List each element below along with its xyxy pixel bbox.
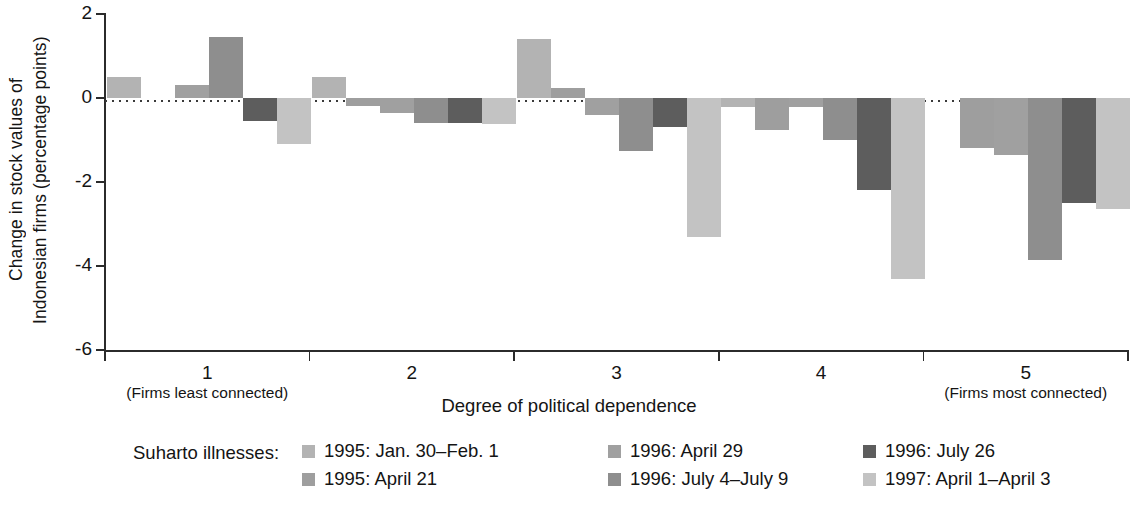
legend-label-5: 1996: July 26: [885, 442, 995, 461]
x-group-tick-3: [718, 350, 720, 361]
legend-label-6: 1997: April 1–April 3: [885, 470, 1051, 489]
legend-item-6[interactable]: 1997: April 1–April 3: [863, 466, 1051, 492]
bar-g4-s3: [789, 98, 823, 107]
bar-g5-s4: [1028, 98, 1062, 260]
bar-g3-s1: [517, 39, 551, 98]
x-group-tick-2: [513, 350, 515, 361]
x-group-tick-0: [104, 350, 106, 361]
bar-g4-s5: [857, 98, 891, 190]
legend-item-4[interactable]: 1996: July 4–July 9: [608, 466, 788, 492]
legend-swatch-icon-1: [302, 445, 315, 458]
legend-swatch-icon-2: [302, 473, 315, 486]
y-tick-label-0: 0: [56, 86, 92, 108]
legend-item-1[interactable]: 1995: Jan. 30–Feb. 1: [302, 438, 499, 464]
bar-g5-s3: [994, 98, 1028, 155]
legend-swatch-icon-5: [863, 445, 876, 458]
x-group-tick-5: [1127, 350, 1129, 361]
y-tick-neg2: [96, 181, 106, 183]
bar-g3-s5: [653, 98, 687, 127]
y-axis-title: Change in stock values of Indonesian fir…: [0, 0, 56, 360]
bar-g1-s5: [243, 98, 277, 121]
bar-g5-s6: [1096, 98, 1130, 209]
x-tick-label-5: 5: [986, 362, 1066, 384]
bar-g2-s4: [414, 98, 448, 123]
x-group-tick-4: [923, 350, 925, 361]
y-axis-title-line1: Change in stock values of: [3, 0, 29, 360]
y-tick-label-wrap: 0: [46, 98, 92, 99]
bar-g2-s1: [312, 77, 346, 98]
bar-g4-s6: [891, 98, 925, 279]
legend-title: Suharto illnesses:: [133, 442, 279, 464]
bar-g2-s3: [380, 98, 414, 113]
y-tick-label-wrap: -4: [46, 266, 92, 267]
y-tick-neg4: [96, 265, 106, 267]
bar-g4-s2: [755, 98, 789, 130]
chart-legend: Suharto illnesses: 1995: Jan. 30–Feb. 11…: [0, 436, 1138, 498]
y-tick-2: [96, 13, 106, 15]
legend-label-2: 1995: April 21: [324, 470, 437, 489]
legend-item-5[interactable]: 1996: July 26: [863, 438, 995, 464]
bar-g2-s2: [346, 98, 380, 106]
y-tick-label-wrap: 2: [46, 14, 92, 15]
bar-g4-s1: [721, 98, 755, 107]
legend-label-1: 1995: Jan. 30–Feb. 1: [324, 442, 499, 461]
x-tick-label-1: 1: [167, 362, 247, 384]
bar-g5-s5: [1062, 98, 1096, 203]
y-tick-label-neg4: -4: [56, 254, 92, 276]
x-axis-line: [105, 350, 1128, 352]
y-tick-label-2: 2: [56, 2, 92, 24]
bar-g1-s1: [107, 77, 141, 98]
bar-g3-s3: [585, 98, 619, 115]
bar-g1-s3: [175, 85, 209, 98]
bar-g3-s6: [687, 98, 721, 237]
y-tick-label-neg2: -2: [56, 170, 92, 192]
x-axis-title: Degree of political dependence: [0, 395, 1138, 417]
legend-swatch-icon-4: [608, 473, 621, 486]
legend-swatch-icon-3: [608, 445, 621, 458]
bar-g1-s6: [277, 98, 311, 144]
legend-item-3[interactable]: 1996: April 29: [608, 438, 743, 464]
x-group-tick-1: [309, 350, 311, 361]
y-tick-label-wrap: -2: [46, 182, 92, 183]
x-tick-label-4: 4: [781, 362, 861, 384]
legend-swatch-icon-6: [863, 473, 876, 486]
bar-g1-s4: [209, 37, 243, 98]
y-tick-label-wrap: -6: [46, 350, 92, 351]
bar-g3-s2: [551, 88, 585, 99]
legend-label-3: 1996: April 29: [630, 442, 743, 461]
x-tick-label-3: 3: [577, 362, 657, 384]
legend-item-2[interactable]: 1995: April 21: [302, 466, 437, 492]
bar-g5-s2: [960, 98, 994, 148]
bar-g3-s4: [619, 98, 653, 151]
x-tick-label-2: 2: [372, 362, 452, 384]
chart-figure: Change in stock values of Indonesian fir…: [0, 0, 1138, 516]
bar-g2-s5: [448, 98, 482, 123]
bar-g4-s4: [823, 98, 857, 140]
bar-g2-s6: [482, 98, 516, 124]
y-tick-0: [96, 97, 106, 99]
legend-label-4: 1996: July 4–July 9: [630, 470, 788, 489]
y-tick-label-neg6: -6: [56, 338, 92, 360]
y-axis-title-line2: Indonesian firms (percentage points): [27, 0, 53, 360]
